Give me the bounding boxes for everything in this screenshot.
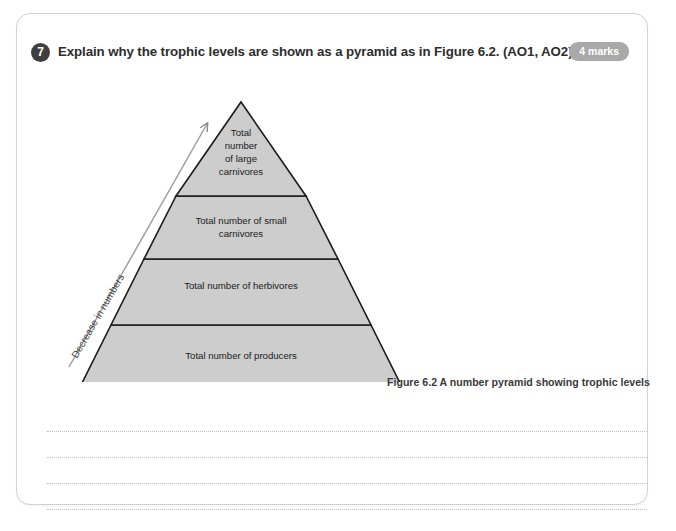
answer-line[interactable] xyxy=(47,484,647,510)
question-header: 7 Explain why the trophic levels are sho… xyxy=(31,41,633,69)
answer-line[interactable] xyxy=(47,432,647,458)
pyramid-diagram: Total number of large carnivores Total n… xyxy=(47,82,447,382)
answer-line[interactable] xyxy=(47,458,647,484)
marks-badge: 4 marks xyxy=(569,42,629,61)
tier-small-carnivores-line-2: carnivores xyxy=(219,228,263,239)
tier-producers-label: Total number of producers xyxy=(185,350,297,361)
tier-large-carnivores-line-4: carnivores xyxy=(219,166,263,177)
tier-large-carnivores-line-2: number xyxy=(225,140,258,151)
answer-lines xyxy=(47,406,647,510)
tier-large-carnivores-line-1: Total xyxy=(231,127,251,138)
figure-number-pyramid: Total number of large carnivores Total n… xyxy=(17,82,649,402)
tier-herbivores-shape xyxy=(111,259,371,325)
question-text: Explain why the trophic levels are shown… xyxy=(58,41,572,63)
question-number-badge: 7 xyxy=(31,43,50,62)
tier-small-carnivores-line-1: Total number of small xyxy=(195,215,286,226)
answer-line[interactable] xyxy=(47,406,647,432)
tier-herbivores-label: Total number of herbivores xyxy=(184,280,298,291)
question-card: 7 Explain why the trophic levels are sho… xyxy=(16,13,648,505)
figure-caption: Figure 6.2 A number pyramid showing trop… xyxy=(387,376,650,388)
tier-large-carnivores-line-3: of large xyxy=(225,153,257,164)
